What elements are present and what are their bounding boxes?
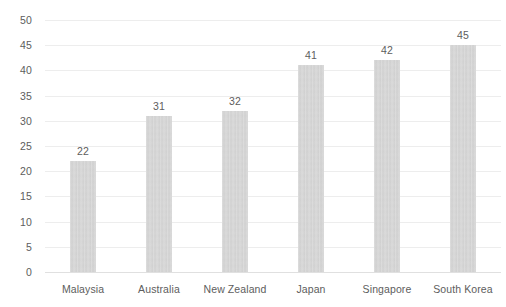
bar-value-label: 32 bbox=[229, 95, 241, 107]
y-tick-label: 40 bbox=[20, 64, 32, 76]
bar[interactable] bbox=[70, 161, 96, 272]
x-tick-label: South Korea bbox=[433, 283, 492, 295]
bar-slot: 31 bbox=[121, 20, 197, 272]
x-tick-label: Singapore bbox=[363, 283, 412, 295]
x-tick-label: Japan bbox=[296, 283, 325, 295]
bar-slot: 32 bbox=[197, 20, 273, 272]
bar[interactable] bbox=[146, 116, 172, 272]
y-tick-label: 30 bbox=[20, 115, 32, 127]
y-tick-label: 15 bbox=[20, 190, 32, 202]
bar[interactable] bbox=[298, 65, 324, 272]
x-tick-label: Malaysia bbox=[62, 283, 104, 295]
y-tick-label: 25 bbox=[20, 140, 32, 152]
y-tick-label: 5 bbox=[26, 241, 32, 253]
bar-value-label: 31 bbox=[153, 100, 165, 112]
y-tick-label: 50 bbox=[20, 14, 32, 26]
bar-slot: 45 bbox=[425, 20, 501, 272]
bar[interactable] bbox=[222, 111, 248, 272]
bar-slot: 41 bbox=[273, 20, 349, 272]
bar[interactable] bbox=[374, 60, 400, 272]
bar-value-label: 42 bbox=[381, 44, 393, 56]
y-axis: 50454035302520151050 bbox=[0, 20, 40, 272]
bar-value-label: 22 bbox=[77, 145, 89, 157]
bar-slot: 42 bbox=[349, 20, 425, 272]
bar[interactable] bbox=[450, 45, 476, 272]
bar-chart: 50454035302520151050 223132414245 Malays… bbox=[0, 0, 506, 307]
bar-value-label: 41 bbox=[305, 49, 317, 61]
x-axis: MalaysiaAustraliaNew ZealandJapanSingapo… bbox=[45, 273, 501, 307]
bar-slot: 22 bbox=[45, 20, 121, 272]
x-tick-label: Australia bbox=[138, 283, 180, 295]
y-tick-label: 10 bbox=[20, 216, 32, 228]
y-tick-label: 0 bbox=[26, 266, 32, 278]
bar-value-label: 45 bbox=[457, 29, 469, 41]
y-tick-label: 35 bbox=[20, 90, 32, 102]
y-tick-label: 20 bbox=[20, 165, 32, 177]
plot-area: 223132414245 bbox=[45, 20, 501, 272]
y-tick-label: 45 bbox=[20, 39, 32, 51]
x-tick-label: New Zealand bbox=[204, 283, 267, 295]
